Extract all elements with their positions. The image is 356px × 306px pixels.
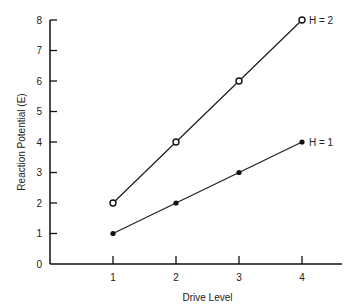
y-tick-label: 1: [36, 228, 42, 239]
y-tick-label: 5: [36, 106, 42, 117]
x-tick-label: 2: [173, 272, 179, 283]
series-label: H = 1: [309, 137, 334, 148]
open-circle-marker: [299, 17, 305, 23]
y-tick-label: 3: [36, 167, 42, 178]
open-circle-marker: [236, 78, 242, 84]
y-tick-label: 4: [36, 137, 42, 148]
y-tick-label: 0: [36, 259, 42, 270]
filled-circle-marker: [299, 139, 304, 144]
y-tick-label: 2: [36, 198, 42, 209]
y-tick-label: 8: [36, 15, 42, 26]
filled-circle-marker: [236, 170, 241, 175]
x-axis-title: Drive Level: [182, 292, 232, 303]
line-chart: 0123456781234Drive LevelReaction Potenti…: [0, 0, 356, 306]
filled-circle-marker: [173, 200, 178, 205]
x-tick-label: 1: [110, 272, 116, 283]
y-tick-label: 7: [36, 45, 42, 56]
y-axis-title: Reaction Potential (E): [16, 93, 27, 190]
series-line: [113, 142, 302, 234]
y-tick-label: 6: [36, 76, 42, 87]
x-tick-label: 3: [236, 272, 242, 283]
series-line: [113, 20, 302, 203]
open-circle-marker: [110, 200, 116, 206]
filled-circle-marker: [110, 231, 115, 236]
x-tick-label: 4: [299, 272, 305, 283]
open-circle-marker: [173, 139, 179, 145]
series-label: H = 2: [309, 15, 334, 26]
